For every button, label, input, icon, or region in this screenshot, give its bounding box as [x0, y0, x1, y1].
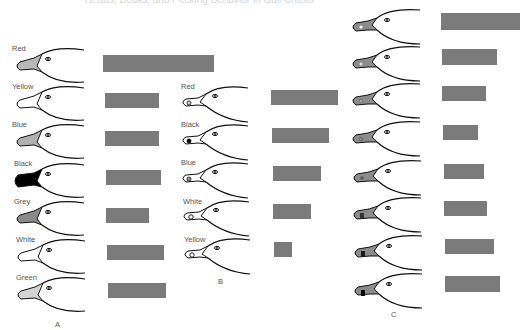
gull-head-icon [352, 270, 422, 310]
figure-caption: Heads, Beaks, and Pecking Behavior in Gu… [85, 0, 314, 5]
response-bar [443, 125, 478, 140]
response-bar [103, 55, 214, 72]
panel-letter-b: B [218, 277, 223, 286]
gull-head-icon [178, 120, 248, 160]
response-bar [105, 93, 159, 108]
gull-head-icon [350, 43, 420, 83]
gull-head-icon [350, 6, 420, 46]
response-bar [273, 166, 321, 181]
gull-head-icon [12, 159, 82, 199]
response-bar [274, 242, 292, 257]
gull-head-icon [178, 82, 248, 122]
response-bar [445, 276, 500, 292]
gull-head-icon [178, 158, 248, 198]
gull-head-icon [179, 196, 249, 236]
response-bar [107, 245, 164, 260]
gull-head-icon [12, 197, 82, 237]
response-bar [441, 13, 520, 30]
response-bar [273, 204, 311, 219]
response-bar [106, 208, 149, 223]
response-bar [105, 131, 159, 146]
response-bar [442, 86, 486, 101]
gull-head-icon [12, 82, 82, 122]
gull-head-icon [13, 235, 83, 275]
response-bar [271, 90, 338, 105]
response-bar [444, 164, 484, 179]
panel-letter-c: C [391, 310, 396, 319]
response-bar [106, 170, 161, 185]
gull-head-icon [12, 120, 82, 160]
gull-head-icon [13, 273, 83, 313]
response-bar [272, 128, 329, 143]
gull-head-icon [350, 80, 420, 120]
gull-head-icon [180, 234, 250, 274]
gull-head-icon [351, 194, 421, 234]
response-bar [108, 283, 166, 298]
gull-head-icon [351, 157, 421, 197]
response-bar [445, 239, 494, 254]
response-bar [444, 201, 487, 216]
panel-letter-a: A [55, 320, 60, 329]
response-bar [442, 49, 497, 65]
gull-head-icon [352, 232, 422, 272]
gull-head-icon [350, 118, 420, 158]
gull-head-icon [12, 44, 82, 84]
